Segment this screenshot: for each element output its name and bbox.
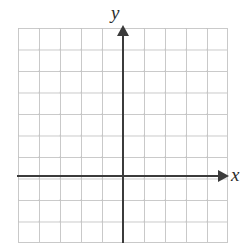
x-axis-label: x bbox=[231, 165, 239, 184]
arrow-up-icon bbox=[117, 25, 129, 36]
grid-right-border bbox=[227, 28, 228, 243]
arrow-right-icon bbox=[218, 170, 229, 182]
coordinate-plane-figure: y x bbox=[0, 0, 252, 249]
y-axis-line bbox=[122, 31, 124, 243]
x-axis-line bbox=[17, 175, 225, 177]
y-axis-label: y bbox=[111, 3, 119, 22]
